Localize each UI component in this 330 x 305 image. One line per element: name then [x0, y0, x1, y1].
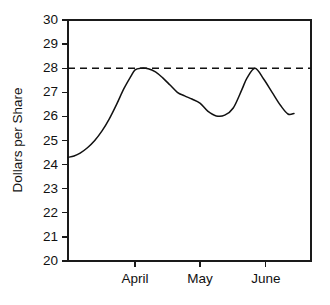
x-axis-tick-labels: AprilMayJune [122, 271, 281, 286]
x-tick-label: June [251, 271, 280, 286]
y-tick-label: 28 [43, 60, 58, 75]
y-tick-label: 25 [43, 133, 58, 148]
line-chart: 3029282726252423222120 AprilMayJune Doll… [0, 0, 330, 305]
y-tick-label: 27 [43, 84, 58, 99]
y-tick-label: 23 [43, 181, 58, 196]
y-tick-label: 22 [43, 205, 58, 220]
y-tick-label: 26 [43, 108, 58, 123]
chart-container: 3029282726252423222120 AprilMayJune Doll… [0, 0, 330, 305]
y-tick-label: 21 [43, 229, 58, 244]
y-tick-label: 30 [43, 12, 58, 27]
y-tick-label: 20 [43, 253, 58, 268]
x-tick-label: May [187, 271, 213, 286]
y-axis-tick-labels: 3029282726252423222120 [43, 12, 59, 268]
y-tick-label: 24 [43, 157, 59, 172]
x-tick-label: April [122, 271, 149, 286]
y-tick-label: 29 [43, 36, 58, 51]
y-axis-title: Dollars per Share [10, 87, 25, 192]
